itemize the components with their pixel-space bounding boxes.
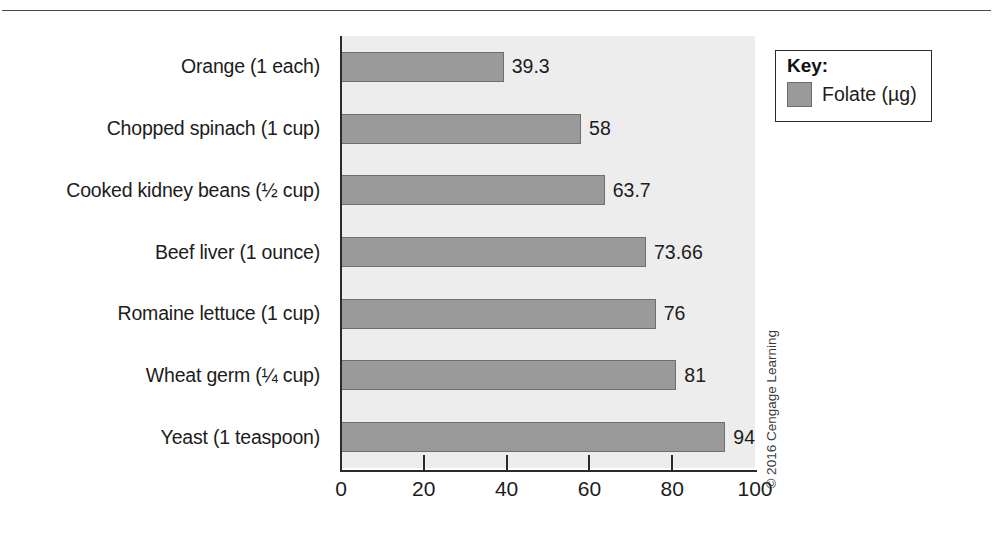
category-label: Chopped spinach (1 cup) <box>107 117 320 140</box>
bar-row: 81 <box>341 345 755 407</box>
x-axis-tick-label: 60 <box>578 477 601 501</box>
category-label: Cooked kidney beans (½ cup) <box>66 179 320 202</box>
bar-value-label: 63.7 <box>613 179 651 202</box>
bar-value-label: 58 <box>589 117 611 140</box>
category-label: Beef liver (1 ounce) <box>155 241 320 264</box>
category-label-row: Orange (1 each) <box>20 36 331 98</box>
x-axis-tick <box>506 455 508 470</box>
category-label: Romaine lettuce (1 cup) <box>118 302 320 325</box>
legend-title: Key: <box>787 56 931 76</box>
bar-row: 63.7 <box>341 159 755 221</box>
category-label-row: Beef liver (1 ounce) <box>20 221 331 283</box>
x-axis-tick <box>423 455 425 470</box>
bar-value-label: 73.66 <box>654 241 703 264</box>
legend-entry: Folate (µg) <box>787 82 931 107</box>
category-label-column: Orange (1 each) Chopped spinach (1 cup) … <box>20 36 331 468</box>
x-axis-tick <box>588 455 590 470</box>
bar <box>341 175 605 205</box>
category-label-row: Romaine lettuce (1 cup) <box>20 283 331 345</box>
bar-series: 39.3 58 63.7 73.66 76 81 94 <box>341 36 755 468</box>
legend-entry-label: Folate (µg) <box>822 83 917 106</box>
x-axis-tick-label: 20 <box>412 477 435 501</box>
bar-row: 73.66 <box>341 221 755 283</box>
bar-row: 76 <box>341 283 755 345</box>
bar <box>341 52 504 82</box>
bar <box>341 360 676 390</box>
bar <box>341 237 646 267</box>
copyright-credit: © 2016 Cengage Learning <box>764 330 779 489</box>
bar-value-label: 94 <box>733 426 755 449</box>
bar <box>341 114 581 144</box>
folate-bar-chart-figure: Orange (1 each) Chopped spinach (1 cup) … <box>0 0 995 555</box>
x-axis-tick-label: 40 <box>495 477 518 501</box>
legend-key-box: Key: Folate (µg) <box>775 50 932 122</box>
category-label-row: Cooked kidney beans (½ cup) <box>20 159 331 221</box>
x-axis-ticks <box>341 455 755 471</box>
y-axis-line <box>340 36 342 472</box>
category-label: Wheat germ (¼ cup) <box>146 364 320 387</box>
bar <box>341 422 725 452</box>
bar-value-label: 39.3 <box>512 55 550 78</box>
x-axis-tick-labels: 020406080100 <box>341 477 755 507</box>
bar-row: 58 <box>341 98 755 160</box>
category-label: Orange (1 each) <box>181 55 320 78</box>
category-label-row: Yeast (1 teaspoon) <box>20 406 331 468</box>
bar <box>341 299 656 329</box>
legend-color-swatch-icon <box>787 82 812 107</box>
bar-row: 39.3 <box>341 36 755 98</box>
bar-value-label: 81 <box>684 364 706 387</box>
category-label-row: Chopped spinach (1 cup) <box>20 98 331 160</box>
category-label: Yeast (1 teaspoon) <box>161 426 320 449</box>
x-axis-tick-label: 0 <box>335 477 347 501</box>
bar-value-label: 76 <box>664 302 686 325</box>
x-axis-tick <box>671 455 673 470</box>
category-label-row: Wheat germ (¼ cup) <box>20 345 331 407</box>
x-axis-tick-label: 80 <box>661 477 684 501</box>
top-divider-rule <box>2 10 991 11</box>
